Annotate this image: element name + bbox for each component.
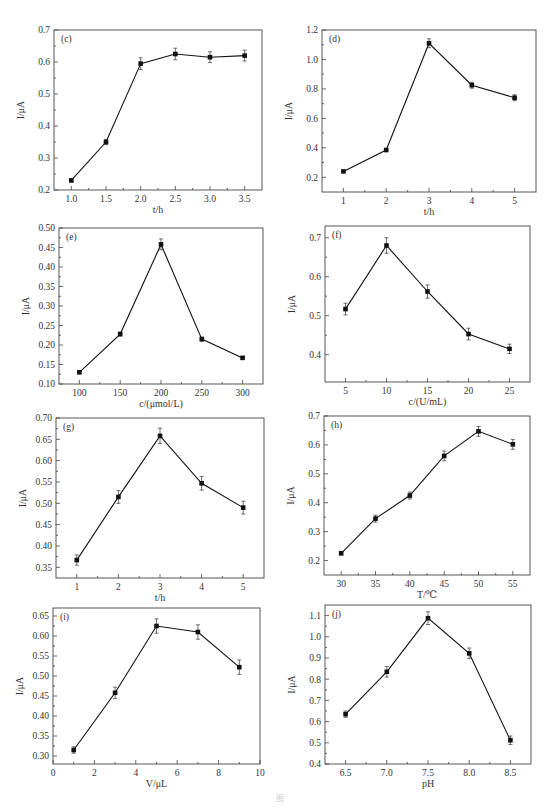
x-tick-label: 1.0 — [65, 194, 77, 204]
y-tick-label: 0.35 — [35, 563, 52, 573]
plot-frame — [59, 228, 263, 384]
y-tick-label: 0.8 — [306, 84, 318, 94]
y-tick-label: 0.4 — [38, 121, 50, 131]
data-point-marker — [196, 630, 201, 635]
x-tick-label: 100 — [72, 388, 87, 398]
y-tick-label: 0.7 — [309, 696, 321, 706]
data-point-marker — [158, 434, 163, 439]
x-axis-title: t/h — [424, 206, 435, 217]
y-tick-label: 0.25 — [38, 321, 55, 331]
y-tick-label: 0.6 — [309, 717, 321, 727]
y-tick-label: 1.2 — [306, 25, 318, 35]
x-tick-label: 250 — [195, 388, 210, 398]
x-tick-label: 55 — [508, 579, 518, 589]
panel-label: (f) — [332, 230, 342, 241]
data-point-marker — [242, 53, 247, 58]
data-point-marker — [425, 289, 430, 294]
y-tick-label: 0.55 — [32, 651, 49, 661]
panel-label: (e) — [66, 232, 77, 243]
y-tick-label: 0.40 — [35, 541, 52, 551]
x-tick-label: 5 — [343, 386, 348, 396]
plot-frame — [325, 605, 531, 764]
y-tick-label: 0.55 — [35, 477, 52, 487]
x-axis-title: pH — [422, 778, 434, 789]
figure-caption: 图 — [0, 792, 559, 803]
y-tick-label: 0.45 — [38, 243, 55, 253]
y-tick-label: 0.40 — [32, 711, 49, 721]
x-axis-title: c/(μmol/L) — [139, 398, 183, 410]
y-tick-label: 1.0 — [306, 55, 318, 65]
plot-frame — [54, 30, 262, 190]
y-tick-label: 1.1 — [309, 611, 321, 621]
data-point-marker — [69, 178, 74, 183]
data-point-marker — [384, 148, 389, 153]
y-tick-label: 0.35 — [38, 282, 55, 292]
data-point-marker — [173, 52, 178, 57]
figure-panels: 1.01.52.02.53.03.50.20.30.40.50.60.7t/hI… — [0, 0, 559, 808]
x-tick-label: 6.5 — [340, 768, 352, 778]
y-tick-label: 0.45 — [35, 520, 52, 530]
y-tick-label: 0.6 — [38, 57, 50, 67]
data-series-line — [77, 436, 243, 560]
y-axis-title: I/μA — [17, 488, 28, 507]
y-tick-label: 0.35 — [32, 731, 49, 741]
chart-panel-e: 1001502002503000.100.150.200.250.300.350… — [20, 223, 263, 410]
x-axis-title: T/℃ — [417, 589, 437, 600]
x-tick-label: 5 — [241, 582, 246, 592]
data-point-marker — [343, 712, 348, 717]
data-point-marker — [442, 454, 447, 459]
data-point-marker — [118, 332, 123, 337]
data-point-marker — [427, 41, 432, 46]
y-tick-label: 0.2 — [308, 556, 320, 566]
plot-frame — [322, 30, 536, 192]
y-tick-label: 0.6 — [308, 440, 320, 450]
x-tick-label: 0 — [51, 768, 56, 778]
y-axis-title: I/μA — [14, 676, 25, 695]
y-tick-label: 0.60 — [32, 631, 49, 641]
chart-panel-i: 02468100.300.350.400.450.500.550.600.65V… — [14, 608, 265, 789]
y-axis-title: I/μA — [286, 294, 297, 313]
data-point-marker — [154, 624, 159, 629]
x-tick-label: 2 — [92, 768, 97, 778]
y-axis-title: I/μA — [286, 674, 297, 693]
x-axis-title: t/h — [155, 592, 166, 603]
x-tick-label: 10 — [382, 386, 392, 396]
y-tick-label: 0.15 — [38, 360, 55, 370]
y-axis-title: I/μA — [20, 296, 31, 315]
data-point-marker — [512, 95, 517, 100]
data-point-marker — [508, 738, 513, 743]
y-tick-label: 0.6 — [309, 272, 321, 282]
y-tick-label: 0.45 — [32, 691, 49, 701]
x-tick-label: 7.5 — [422, 768, 434, 778]
panel-label: (d) — [329, 34, 340, 45]
y-tick-label: 0.50 — [32, 671, 49, 681]
data-series-line — [71, 54, 244, 180]
x-tick-label: 300 — [235, 388, 250, 398]
y-tick-label: 0.7 — [308, 411, 320, 421]
x-tick-label: 35 — [371, 579, 381, 589]
x-tick-label: 4 — [133, 768, 138, 778]
y-axis-title: I/μA — [285, 485, 296, 504]
x-tick-label: 50 — [474, 579, 484, 589]
y-tick-label: 0.60 — [35, 456, 52, 466]
plot-frame — [324, 416, 530, 575]
data-point-marker — [384, 243, 389, 248]
y-tick-label: 0.6 — [306, 114, 318, 124]
x-tick-label: 3.5 — [239, 194, 251, 204]
y-tick-label: 0.4 — [309, 350, 321, 360]
panel-label: (j) — [332, 609, 341, 620]
y-tick-label: 0.50 — [38, 223, 55, 233]
x-tick-label: 8 — [216, 768, 221, 778]
data-point-marker — [75, 558, 80, 563]
data-series-line — [74, 626, 240, 750]
y-tick-label: 0.2 — [306, 173, 318, 183]
x-tick-label: 4 — [199, 582, 204, 592]
y-tick-label: 0.2 — [38, 185, 50, 195]
x-axis-title: V/μL — [146, 778, 167, 789]
data-point-marker — [237, 665, 242, 670]
x-tick-label: 1 — [341, 196, 346, 206]
y-tick-label: 0.4 — [309, 759, 321, 769]
x-tick-label: 150 — [113, 388, 128, 398]
x-tick-label: 6 — [175, 768, 180, 778]
x-tick-label: 15 — [423, 386, 433, 396]
